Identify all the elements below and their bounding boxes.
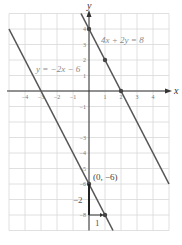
x-axis-label: x (173, 85, 179, 96)
x-tick-label: −2 (54, 94, 60, 100)
x-tick-label: −4 (22, 94, 28, 100)
y-tick-label: 3 (83, 42, 86, 48)
y-tick-label: −4 (80, 150, 86, 156)
x-tick-label: 4 (152, 94, 155, 100)
y-tick-label: −3 (80, 135, 86, 141)
line1-equation-label: 4x + 2y = 8 (101, 35, 144, 45)
x-tick-label: 1 (104, 94, 107, 100)
y-tick-label: 2 (83, 57, 86, 63)
data-point (103, 58, 107, 62)
y-axis-label: y (86, 0, 92, 11)
x-tick-label: −1 (70, 94, 76, 100)
y-tick-label: −6 (80, 181, 86, 187)
x-tick-label: 3 (136, 94, 139, 100)
run-label: 1 (95, 218, 100, 228)
rise-label: −2 (73, 195, 83, 205)
y-tick-label: −8 (80, 212, 86, 218)
coordinate-plane: −4−3−2−112344321−1−3−4−5−6−8 x y 4x + 2y… (0, 0, 182, 245)
data-point (87, 27, 91, 31)
x-tick-label: 2 (120, 94, 123, 100)
x-axis-arrow-icon (165, 89, 172, 94)
line2-equation-label: y = −2x − 6 (35, 64, 81, 74)
data-point (119, 89, 123, 93)
y-tick-label: 4 (83, 26, 86, 32)
y-intercept-label: (0, −6) (93, 172, 118, 182)
y-tick-label: −1 (80, 104, 86, 110)
y-tick-label: 1 (83, 73, 86, 79)
